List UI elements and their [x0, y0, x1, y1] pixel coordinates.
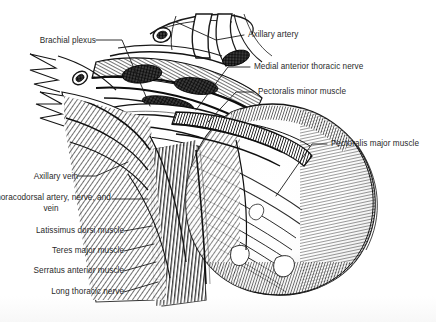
- label-latissimus-dorsi: Latissimus dorsi muscle: [0, 226, 124, 236]
- label-pectoralis-major: Pectoralis major muscle: [331, 139, 419, 149]
- label-long-thoracic-nerve: Long thoracic nerve: [0, 287, 124, 297]
- label-teres-major: Teres major muscle: [0, 246, 124, 256]
- label-axillary-vein: Axillary vein: [0, 172, 78, 182]
- label-serratus-anterior: Serratus anterior muscle: [0, 266, 124, 276]
- label-pectoralis-minor: Pectoralis minor muscle: [258, 87, 346, 97]
- label-brachial-plexus: Brachial plexus: [0, 36, 96, 46]
- label-thoracodorsal: Thoracodorsal artery, nerve, and vein: [0, 193, 112, 214]
- label-medial-anterior-thoracic-nerve: Medial anterior thoracic nerve: [254, 62, 363, 72]
- label-axillary-artery: Axillary artery: [248, 30, 298, 40]
